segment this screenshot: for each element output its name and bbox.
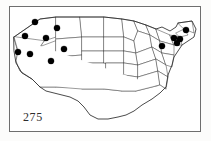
- figure-frame: 275: [9, 6, 201, 132]
- dot-montana: [54, 25, 60, 31]
- dot-washington: [32, 19, 38, 25]
- figure-number: 275: [23, 111, 43, 123]
- dot-new-york: [159, 43, 165, 49]
- dot-utah: [48, 58, 54, 64]
- distribution-map-figure: 275: [0, 0, 211, 141]
- dot-maine: [183, 27, 189, 33]
- dot-oregon: [22, 33, 28, 39]
- dot-nevada: [27, 51, 33, 57]
- dot-idaho: [43, 35, 49, 41]
- dot-california: [15, 49, 21, 55]
- dot-wyoming: [61, 46, 67, 52]
- dot-massachusetts: [174, 40, 180, 46]
